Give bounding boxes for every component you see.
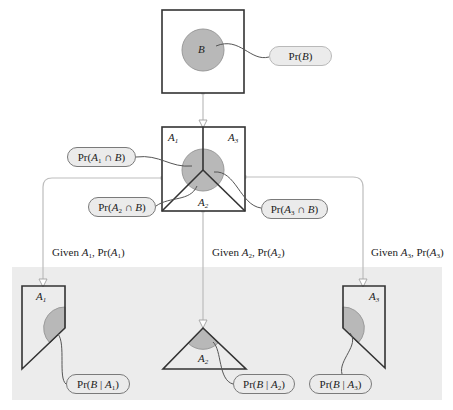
branch-label-a3: Given A3, Pr(A3) (371, 246, 444, 260)
region-a1-label: A1 (168, 131, 178, 145)
probability-tree-diagram (0, 0, 453, 410)
pr-b-given-a3-pill: Pr(B | A3) (309, 374, 372, 394)
pr-b-given-a1-pill: Pr(B | A1) (66, 374, 130, 394)
branch-label-a1: Given A1, Pr(A1) (52, 246, 125, 260)
event-b-label: B (198, 43, 205, 55)
region-a2-label: A2 (198, 196, 208, 210)
bottom-region-a3-label: A3 (369, 290, 379, 304)
bottom-region-a2-label: A2 (198, 352, 208, 366)
pr-a3-and-b-pill: Pr(A3 ∩ B) (261, 199, 328, 219)
region-a3-label: A3 (228, 131, 238, 145)
pr-a1-and-b-pill: Pr(A1 ∩ B) (67, 147, 136, 167)
pr-b-pill: Pr(B) (269, 46, 332, 66)
pr-a2-and-b-pill: Pr(A2 ∩ B) (88, 197, 156, 217)
bottom-region-a1-label: A1 (36, 290, 46, 304)
pr-b-given-a2-pill: Pr(B | A2) (233, 374, 295, 394)
branch-label-a2: Given A2, Pr(A2) (212, 246, 285, 260)
